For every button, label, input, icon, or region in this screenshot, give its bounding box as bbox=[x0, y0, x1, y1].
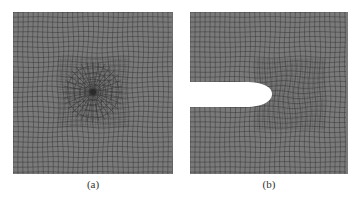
caption-a: (a) bbox=[73, 178, 113, 190]
mesh-panel-a bbox=[13, 12, 173, 174]
mesh-panel-b bbox=[190, 12, 348, 174]
mesh-b-graphic bbox=[190, 12, 348, 174]
mesh-a-graphic bbox=[13, 12, 173, 174]
caption-b: (b) bbox=[249, 178, 289, 190]
